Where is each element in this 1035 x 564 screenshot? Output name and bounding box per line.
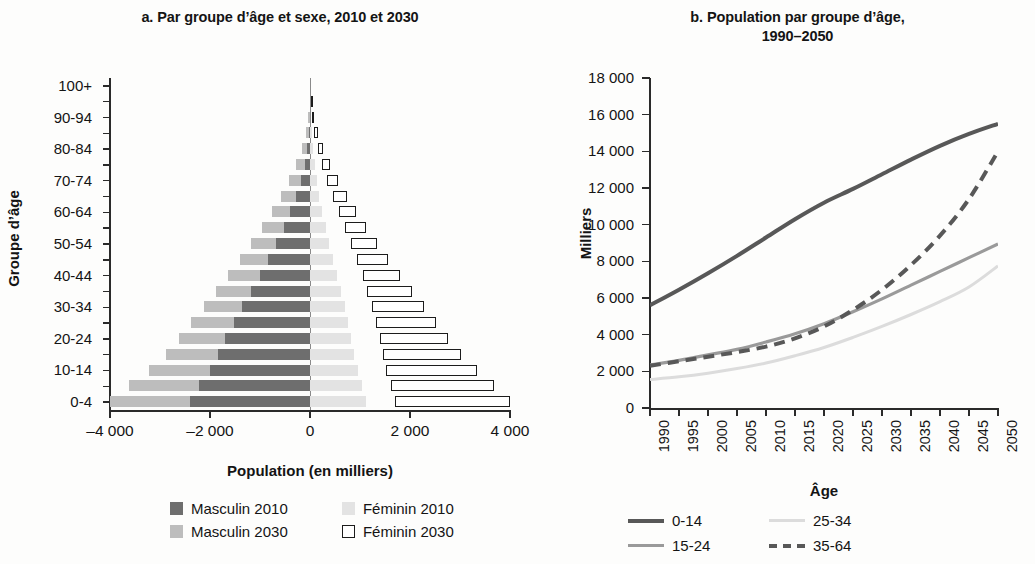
legend-label: 35-64 bbox=[813, 537, 851, 554]
pyramid-y-tick bbox=[103, 117, 110, 118]
bar-masculin-2010 bbox=[234, 317, 311, 328]
legend-item-35-64[interactable]: 35-64 bbox=[769, 537, 888, 554]
pyramid-row bbox=[110, 315, 510, 331]
pyramid-row bbox=[110, 125, 510, 141]
pyramid-y-tick bbox=[103, 401, 110, 402]
legend-line-icon bbox=[628, 544, 664, 547]
bar-feminin-2030 bbox=[383, 349, 462, 360]
line-x-tick bbox=[881, 408, 882, 416]
bar-feminin-2010 bbox=[310, 191, 319, 202]
pyramid-y-tick-label: 60-64 bbox=[6, 204, 92, 219]
line-x-tick-label: 2025 bbox=[859, 420, 875, 452]
panel-b-title-line2: 1990–2050 bbox=[560, 27, 1035, 46]
pyramid-y-tick bbox=[103, 243, 110, 244]
bar-feminin-2030 bbox=[372, 301, 424, 312]
line-x-tick-label: 2030 bbox=[888, 420, 904, 452]
legend-item-0-14[interactable]: 0-14 bbox=[628, 512, 747, 529]
bar-masculin-2010 bbox=[190, 396, 310, 407]
bar-masculin-2010 bbox=[296, 191, 310, 202]
pyramid-row bbox=[110, 378, 510, 394]
pyramid-row bbox=[110, 284, 510, 300]
pyramid-y-tick bbox=[103, 338, 110, 339]
legend-item-f2010[interactable]: Féminin 2010 bbox=[342, 500, 490, 517]
pyramid-row bbox=[110, 220, 510, 236]
bar-feminin-2030 bbox=[345, 222, 367, 233]
bar-feminin-2030 bbox=[339, 206, 357, 217]
bar-masculin-2010 bbox=[301, 175, 310, 186]
bar-feminin-2030 bbox=[351, 238, 377, 249]
legend-item-25-34[interactable]: 25-34 bbox=[769, 512, 888, 529]
bar-masculin-2010 bbox=[268, 254, 310, 265]
line-x-tick bbox=[794, 408, 795, 416]
bar-feminin-2030 bbox=[386, 365, 477, 376]
pyramid-row bbox=[110, 299, 510, 315]
pyramid-x-tick bbox=[409, 410, 410, 418]
pyramid-y-tick bbox=[103, 164, 110, 165]
line-x-tick-label: 2050 bbox=[1004, 420, 1020, 452]
pyramid-row bbox=[110, 173, 510, 189]
line-y-tick bbox=[642, 224, 650, 225]
bar-feminin-2010 bbox=[310, 349, 354, 360]
line-legend: 0-1425-3415-2435-64 bbox=[628, 512, 888, 554]
line-y-tick-label: 12 000 bbox=[566, 180, 634, 195]
pyramid-row bbox=[110, 141, 510, 157]
bar-masculin-2010 bbox=[251, 286, 310, 297]
pyramid-y-tick bbox=[103, 212, 110, 213]
panel-population-pyramid: a. Par groupe d’âge et sexe, 2010 et 203… bbox=[0, 0, 560, 564]
bar-feminin-2030 bbox=[333, 191, 347, 202]
legend-item-f2030[interactable]: Féminin 2030 bbox=[342, 523, 490, 540]
pyramid-row bbox=[110, 363, 510, 379]
line-x-tick-label: 1990 bbox=[656, 420, 672, 452]
pyramid-x-tick-label: 0 bbox=[306, 422, 315, 440]
pyramid-y-tick-label: 70-74 bbox=[6, 173, 92, 188]
pyramid-x-tick-label: 2 000 bbox=[391, 422, 430, 440]
line-y-tick bbox=[642, 297, 650, 298]
pyramid-y-tick bbox=[103, 386, 110, 387]
pyramid-row bbox=[110, 94, 510, 110]
bar-feminin-2030 bbox=[395, 396, 510, 407]
legend-item-15-24[interactable]: 15-24 bbox=[628, 537, 747, 554]
pyramid-row bbox=[110, 268, 510, 284]
line-x-tick-label: 1995 bbox=[685, 420, 701, 452]
panel-b-title: b. Population par groupe d’âge, 1990–205… bbox=[560, 8, 1035, 46]
line-x-tick-label: 2015 bbox=[801, 420, 817, 452]
line-plot-area bbox=[650, 78, 998, 408]
pyramid-y-tick bbox=[103, 354, 110, 355]
line-y-tick-label: 10 000 bbox=[566, 217, 634, 232]
pyramid-y-tick bbox=[103, 291, 110, 292]
line-series-0-14 bbox=[650, 124, 998, 306]
pyramid-x-tick bbox=[509, 410, 510, 418]
legend-line-icon bbox=[628, 519, 664, 523]
pyramid-x-tick-label: –2 000 bbox=[186, 422, 233, 440]
bar-feminin-2030 bbox=[367, 286, 412, 297]
line-x-axis-title: Âge bbox=[650, 482, 998, 499]
pyramid-row bbox=[110, 110, 510, 126]
legend-item-m2010[interactable]: Masculin 2010 bbox=[170, 500, 324, 517]
legend-swatch-icon bbox=[342, 502, 355, 515]
bar-feminin-2010 bbox=[310, 159, 315, 170]
line-x-tick bbox=[910, 408, 911, 416]
pyramid-y-tick bbox=[103, 101, 110, 102]
pyramid-y-tick bbox=[103, 196, 110, 197]
line-y-tick-label: 14 000 bbox=[566, 143, 634, 158]
bar-feminin-2010 bbox=[310, 317, 348, 328]
line-x-tick bbox=[968, 408, 969, 416]
bar-feminin-2030 bbox=[363, 270, 400, 281]
pyramid-row bbox=[110, 204, 510, 220]
bar-feminin-2010 bbox=[310, 270, 337, 281]
pyramid-y-tick-label: 100+ bbox=[6, 78, 92, 93]
pyramid-y-tick bbox=[103, 370, 110, 371]
pyramid-row bbox=[110, 236, 510, 252]
line-x-tick bbox=[649, 408, 650, 416]
legend-label: 15-24 bbox=[672, 537, 710, 554]
line-y-tick bbox=[642, 187, 650, 188]
legend-line-icon bbox=[769, 544, 805, 548]
legend-swatch-icon bbox=[342, 525, 355, 538]
pyramid-y-tick bbox=[103, 307, 110, 308]
pyramid-y-tick-label: 80-84 bbox=[6, 141, 92, 156]
bar-masculin-2010 bbox=[199, 380, 311, 391]
legend-swatch-icon bbox=[170, 525, 183, 538]
legend-item-m2030[interactable]: Masculin 2030 bbox=[170, 523, 324, 540]
line-x-tick bbox=[939, 408, 940, 416]
pyramid-y-tick-label: 10-14 bbox=[6, 362, 92, 377]
